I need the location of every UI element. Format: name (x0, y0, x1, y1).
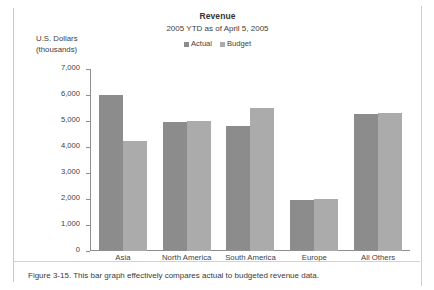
legend-label-actual: Actual (191, 39, 212, 48)
y-axis-title-line1: U.S. Dollars (36, 33, 78, 44)
plot-area: 7,0006,0005,0004,0003,0002,0001,0000 (90, 69, 410, 251)
y-axis-tick: 5,000 (86, 121, 90, 122)
y-axis-title-line2: (thousands) (36, 44, 78, 55)
bar-group (219, 69, 283, 251)
y-axis-tick: 2,000 (86, 199, 90, 200)
legend-label-budget: Budget (227, 39, 251, 48)
y-axis-tick-label: 4,000 (61, 141, 80, 150)
bar-budget (378, 113, 402, 251)
y-axis-tick: 0 (86, 251, 90, 252)
bar-group (282, 69, 346, 251)
bar-budget (187, 121, 211, 251)
revenue-bar-chart: Revenue 2005 YTD as of April 5, 2005 Act… (14, 6, 421, 261)
y-axis-tick: 3,000 (86, 173, 90, 174)
y-axis-tick-label: 5,000 (61, 115, 80, 124)
legend-swatch-budget (220, 42, 225, 47)
y-axis-tick-label: 2,000 (61, 193, 80, 202)
bar-group (91, 69, 155, 251)
y-axis-tick: 1,000 (86, 225, 90, 226)
y-axis-tick: 6,000 (86, 95, 90, 96)
figure-caption: Figure 3-15. This bar graph effectively … (28, 270, 418, 281)
bar-group (346, 69, 410, 251)
y-axis-tick-label: 7,000 (61, 63, 80, 72)
bar-actual (99, 95, 123, 251)
y-axis-tick-label: 6,000 (61, 89, 80, 98)
bar-actual (354, 114, 378, 251)
y-axis-tick-label: 0 (76, 245, 80, 254)
bar-group (155, 69, 219, 251)
bar-actual (226, 126, 250, 251)
y-axis-tick-label: 1,000 (61, 219, 80, 228)
y-axis-tick-label: 3,000 (61, 167, 80, 176)
bar-budget (250, 108, 274, 251)
bar-budget (123, 141, 147, 252)
chart-title: Revenue (14, 10, 421, 22)
y-axis-tick: 7,000 (86, 69, 90, 70)
bar-groups (91, 69, 410, 251)
caption-divider (14, 261, 420, 262)
legend-swatch-actual (184, 42, 189, 47)
legend-item-budget: Budget (220, 38, 251, 50)
y-axis-title: U.S. Dollars (thousands) (36, 33, 78, 55)
bar-budget (314, 199, 338, 251)
y-axis-tick: 4,000 (86, 147, 90, 148)
bar-actual (163, 122, 187, 251)
page-rule-right (421, 6, 422, 286)
legend-item-actual: Actual (184, 38, 212, 50)
bar-actual (290, 200, 314, 251)
